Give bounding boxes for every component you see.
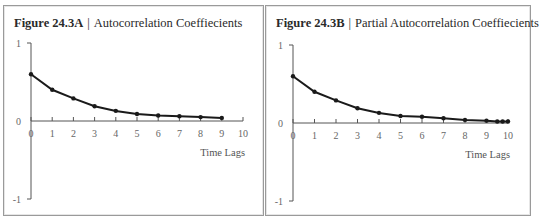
x-tick-label: 9 bbox=[484, 130, 489, 141]
data-point bbox=[220, 116, 224, 120]
x-tick-label: 6 bbox=[156, 128, 161, 139]
data-point bbox=[135, 112, 139, 116]
x-tick-label: 5 bbox=[135, 128, 140, 139]
x-axis-title: Time Lags bbox=[465, 149, 510, 160]
x-tick-label: 2 bbox=[334, 130, 339, 141]
data-point bbox=[177, 114, 181, 118]
x-tick-label: 3 bbox=[92, 128, 97, 139]
x-tick-label: 7 bbox=[441, 130, 446, 141]
figure-panel-a: Figure 24.3A|Autocorrelation Coeffiecien… bbox=[3, 5, 264, 216]
data-point bbox=[420, 115, 424, 119]
data-point bbox=[50, 88, 54, 92]
x-tick-label: 0 bbox=[29, 128, 34, 139]
x-tick-label: 8 bbox=[198, 128, 203, 139]
data-point bbox=[312, 90, 316, 94]
data-point bbox=[463, 118, 467, 122]
x-tick-label: 7 bbox=[177, 128, 182, 139]
x-tick-label: 2 bbox=[71, 128, 76, 139]
x-tick-label: 5 bbox=[398, 130, 403, 141]
y-tick-label: -1 bbox=[275, 196, 283, 207]
data-point bbox=[441, 116, 445, 120]
x-tick-label: 4 bbox=[113, 128, 118, 139]
data-point bbox=[506, 119, 510, 123]
data-point bbox=[198, 115, 202, 119]
data-point bbox=[398, 114, 402, 118]
x-tick-label: 10 bbox=[503, 130, 513, 141]
y-tick-label: 0 bbox=[278, 118, 283, 129]
data-point bbox=[92, 104, 96, 108]
x-tick-label: 1 bbox=[50, 128, 55, 139]
data-point bbox=[500, 119, 504, 123]
partial-autocorrelation-chart: 10-1012345678910Time Lags bbox=[266, 6, 532, 217]
x-tick-label: 1 bbox=[312, 130, 317, 141]
data-point bbox=[71, 96, 75, 100]
data-point bbox=[156, 113, 160, 117]
data-point bbox=[334, 98, 338, 102]
x-tick-label: 3 bbox=[355, 130, 360, 141]
figure-panel-b: Figure 24.3B|Partial Autocorrelation Coe… bbox=[265, 5, 531, 216]
y-tick-label: -1 bbox=[13, 194, 21, 205]
x-tick-label: 8 bbox=[463, 130, 468, 141]
x-tick-label: 0 bbox=[291, 130, 296, 141]
x-tick-label: 9 bbox=[219, 128, 224, 139]
data-point bbox=[495, 119, 499, 123]
x-tick-label: 4 bbox=[377, 130, 382, 141]
data-point bbox=[377, 111, 381, 115]
data-point bbox=[114, 109, 118, 113]
autocorrelation-chart: 10-1012345678910Time Lags bbox=[4, 6, 265, 217]
data-line bbox=[31, 74, 222, 118]
data-point bbox=[355, 106, 359, 110]
data-point bbox=[29, 72, 33, 76]
y-tick-label: 1 bbox=[278, 40, 283, 51]
data-point bbox=[291, 74, 295, 78]
x-tick-label: 10 bbox=[238, 128, 248, 139]
x-axis-title: Time Lags bbox=[200, 147, 245, 158]
x-tick-label: 6 bbox=[420, 130, 425, 141]
data-point bbox=[484, 118, 488, 122]
y-tick-label: 1 bbox=[16, 38, 21, 49]
y-tick-label: 0 bbox=[16, 116, 21, 127]
